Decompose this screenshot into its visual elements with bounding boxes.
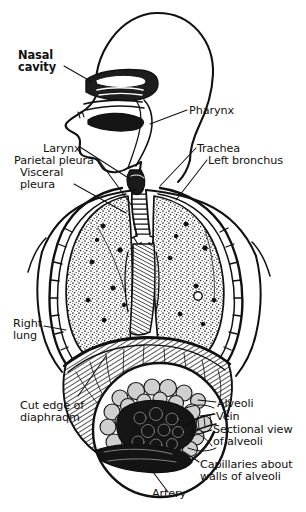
label-trachea: Trachea: [197, 143, 240, 155]
label-artery: Artery: [152, 488, 186, 500]
right-lung: [66, 196, 132, 356]
label-visceral-pleura: Visceral pleura: [20, 167, 63, 190]
label-pharynx: Pharynx: [189, 105, 234, 117]
label-nasal-cavity: Nasal cavity: [18, 50, 56, 74]
label-larynx: Larynx: [43, 143, 80, 155]
label-left-bronchus: Left bronchus: [208, 155, 283, 167]
label-right-lung: Right lung: [13, 318, 42, 341]
label-capillaries-about-walls-of-alveoli: Capillaries about walls of alveoli: [200, 459, 293, 482]
left-lung: [153, 196, 224, 356]
label-vein: Vein: [216, 411, 239, 423]
label-alveoli: Alveoli: [217, 398, 254, 410]
label-parietal-pleura: Parietal pleura: [14, 155, 94, 167]
respiratory-diagram: Nasal cavity Pharynx Larynx Parietal ple…: [0, 0, 306, 512]
label-sectional-view-of-alveoli: Sectional view of alveoli: [213, 424, 292, 447]
label-cut-edge-of-diaphragm: Cut edge of diaphraqm: [20, 400, 84, 423]
trachea: [132, 190, 150, 236]
mediastinum: [130, 244, 155, 335]
